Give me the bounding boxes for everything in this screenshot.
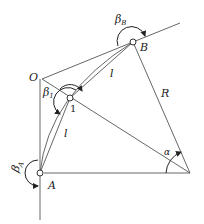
point-B: [130, 39, 136, 45]
chord-1-B: [70, 42, 133, 98]
label-point-1: 1: [70, 104, 76, 114]
line-OB: [42, 42, 133, 79]
label-R: R: [161, 88, 169, 99]
label-B: B: [140, 42, 148, 53]
beta-1-subscript: 1: [49, 92, 53, 100]
point-A: [37, 170, 43, 176]
label-alpha: α: [164, 148, 170, 157]
label-beta-1: β1: [43, 87, 54, 100]
beta-A-arc: [25, 160, 38, 186]
label-l-lower: l: [64, 128, 68, 139]
line-B-extension: [133, 23, 180, 42]
label-O: O: [29, 72, 38, 83]
label-l-upper: l: [110, 68, 114, 79]
beta-B-subscript: B: [121, 19, 126, 27]
label-A: A: [48, 180, 56, 191]
diagram-canvas: [0, 0, 204, 224]
geometry-diagram: O A B 1 R l l α βB β1 βA: [0, 0, 204, 224]
line-BC-radius: [133, 42, 190, 173]
point-1: [67, 95, 73, 101]
label-beta-B: βB: [115, 14, 127, 27]
